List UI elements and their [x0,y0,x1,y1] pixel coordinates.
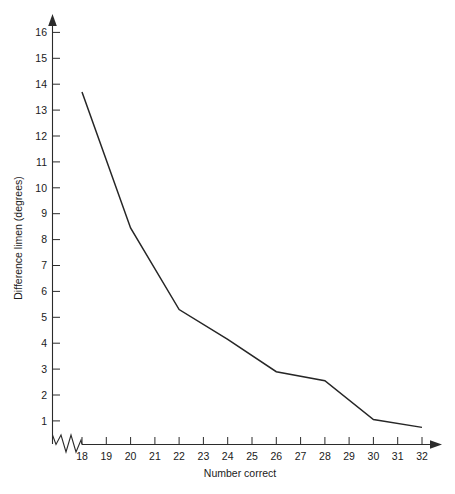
y-tick-label: 13 [35,104,47,116]
x-tick-marks [82,437,422,445]
y-tick-label: 10 [35,182,47,194]
y-tick-label: 1 [41,415,47,427]
y-tick-label: 4 [41,337,47,349]
x-tick-label: 30 [368,450,380,462]
x-tick-label: 22 [173,450,185,462]
y-tick-label: 3 [41,363,47,375]
x-tick-label: 23 [198,450,210,462]
y-tick-label: 8 [41,233,47,245]
x-axis-title: Number correct [204,467,276,479]
y-tick-label: 15 [35,52,47,64]
y-tick-label: 14 [35,78,47,90]
x-tick-label: 21 [149,450,161,462]
y-tick-labels: 1 2 3 4 5 6 7 8 9 10 11 12 13 14 15 16 [35,26,47,427]
y-axis-arrow-icon [48,14,57,26]
y-tick-label: 12 [35,130,47,142]
y-tick-label: 11 [36,156,47,168]
x-tick-label: 18 [76,450,88,462]
x-tick-label: 28 [319,450,331,462]
x-axis [82,440,442,449]
x-tick-label: 24 [222,450,234,462]
chart-figure: 1 2 3 4 5 6 7 8 9 10 11 12 13 14 15 16 [0,0,455,494]
line-chart: 1 2 3 4 5 6 7 8 9 10 11 12 13 14 15 16 [0,0,455,494]
x-tick-label: 32 [416,450,428,462]
x-tick-label: 26 [270,450,282,462]
x-tick-label: 25 [246,450,258,462]
y-tick-label: 7 [41,259,47,271]
x-tick-label: 19 [100,450,112,462]
y-tick-marks [53,32,61,421]
x-tick-label: 20 [125,450,137,462]
x-axis-arrow-icon [430,440,442,449]
y-tick-label: 5 [41,311,47,323]
y-tick-label: 6 [41,285,47,297]
y-tick-label: 2 [41,389,47,401]
x-tick-label: 31 [392,450,404,462]
data-line-series [82,92,422,427]
y-tick-label: 9 [41,207,47,219]
y-axis [48,14,57,444]
x-tick-label: 29 [343,450,355,462]
x-tick-label: 27 [295,450,307,462]
y-tick-label: 16 [35,26,47,38]
x-tick-labels: 18 19 20 21 22 23 24 25 26 27 28 29 30 3… [76,450,428,462]
y-axis-title: Difference limen (degrees) [12,176,24,300]
